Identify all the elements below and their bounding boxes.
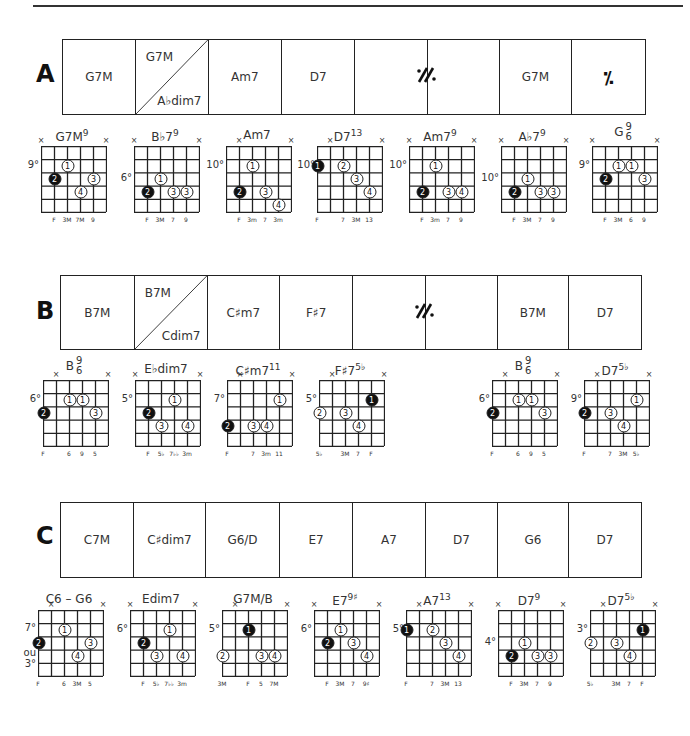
interval-labels: F73M5♭ xyxy=(584,450,649,460)
interval-label: 7♭♭ xyxy=(164,680,173,687)
bar-chord-name: F♯7 xyxy=(306,306,326,320)
interval-label: F xyxy=(52,216,55,223)
chord-name: E♭dim7 xyxy=(144,362,188,376)
chord-name: D7 xyxy=(608,594,625,608)
interval-label: 5 xyxy=(93,450,97,457)
interval-label: 3M xyxy=(341,450,350,457)
interval-label: 3m xyxy=(177,680,187,687)
muted-string-x-icon: × xyxy=(381,370,388,379)
muted-string-x-icon: × xyxy=(589,136,596,145)
interval-label: F xyxy=(512,216,515,223)
chord-diagram: D75♭××9°1234F73M5♭ xyxy=(574,362,664,472)
barre-finger-dot: 1 xyxy=(636,623,649,636)
finger-dot: 1 xyxy=(612,159,625,172)
top-rule xyxy=(33,5,683,7)
interval-label: F xyxy=(509,680,512,687)
bar-chord-name: C♯dim7 xyxy=(147,533,191,547)
bar-chord-name: B7M xyxy=(84,306,110,320)
chord-extension-bottom: 6 xyxy=(525,366,531,376)
muted-string-x-icon: × xyxy=(652,600,659,609)
finger-dot: 1 xyxy=(334,623,347,636)
finger-dot: 2 xyxy=(426,623,439,636)
muted-string-x-icon: × xyxy=(646,370,653,379)
finger-dot: 1 xyxy=(625,159,638,172)
bar-cell: G7MA♭dim7 xyxy=(136,40,209,114)
chord-name: E7 xyxy=(332,594,347,608)
finger-dot: 4 xyxy=(360,650,373,663)
barre-finger-dot: 2 xyxy=(221,420,234,433)
chord-diagram: D713××10°1234F73M13 xyxy=(307,128,397,238)
interval-label: 7 xyxy=(171,216,175,223)
barre-finger-dot: 2 xyxy=(416,186,429,199)
muted-string-x-icon: × xyxy=(563,136,570,145)
muted-string-x-icon: × xyxy=(471,136,478,145)
chord-diagram: Am7××10°1234F3m73m xyxy=(216,128,306,238)
fret-lines xyxy=(584,380,650,447)
interval-labels: F3M79 xyxy=(498,680,563,690)
barre-finger-dot: 2 xyxy=(486,407,499,420)
fretboard-grid: ××9°1123 xyxy=(592,146,657,212)
chord-diagram: C6 – G6××7°ou3°1234F63M5 xyxy=(28,592,118,702)
finger-dot: 4 xyxy=(363,186,376,199)
interval-labels: F73m11 xyxy=(227,450,292,460)
finger-dot: 4 xyxy=(268,650,281,663)
muted-string-x-icon: × xyxy=(192,600,199,609)
chord-name: D7 xyxy=(602,364,619,378)
finger-dot: 1 xyxy=(273,393,286,406)
muted-string-x-icon: × xyxy=(131,136,138,145)
bar-cell xyxy=(355,40,428,114)
interval-label: 6 xyxy=(629,216,633,223)
interval-label: 3M xyxy=(156,216,165,223)
fretboard-grid: ××10°1233 xyxy=(501,146,566,212)
finger-dot: 2 xyxy=(313,407,326,420)
muted-string-x-icon: × xyxy=(53,370,60,379)
fretboard-grid: ××5°1234 xyxy=(319,380,384,446)
interval-labels: F695 xyxy=(492,450,557,460)
chord-diagram-title: B96 xyxy=(33,356,115,376)
fretboard-grid: ××6°1234 xyxy=(130,610,195,676)
bar-cell: G6/D xyxy=(206,503,280,577)
interval-label: 7 xyxy=(446,216,450,223)
interval-label: F xyxy=(145,216,148,223)
interval-label: 5♭ xyxy=(158,450,165,457)
interval-label: 9 xyxy=(184,216,188,223)
interval-labels: F3M69 xyxy=(592,216,657,226)
muted-string-x-icon: × xyxy=(38,136,45,145)
bar-chord-name: C7M xyxy=(84,533,110,547)
interval-label: 7 xyxy=(351,680,355,687)
muted-string-x-icon: × xyxy=(498,136,505,145)
muted-string-x-icon: × xyxy=(416,600,423,609)
section-label: C xyxy=(36,522,54,550)
finger-dot: 1 xyxy=(163,623,176,636)
interval-label: F xyxy=(420,216,423,223)
chord-extension-stack: 96 xyxy=(76,356,82,376)
interval-label: 3M xyxy=(336,680,345,687)
finger-dot: 1 xyxy=(429,159,442,172)
fret-position-label: 6° xyxy=(21,393,41,404)
interval-labels: F3m79 xyxy=(409,216,474,226)
muted-string-x-icon: × xyxy=(554,370,561,379)
fret-lines xyxy=(319,380,385,447)
interval-label: 7 xyxy=(538,216,542,223)
interval-label: F xyxy=(369,450,372,457)
fret-position-label: 4° xyxy=(476,636,496,647)
barre-finger-dot: 2 xyxy=(321,637,334,650)
finger-dot: 1 xyxy=(630,393,643,406)
chord-extension-stack: 96 xyxy=(525,356,531,376)
chord-name: B xyxy=(515,359,523,373)
interval-label: F xyxy=(146,450,149,457)
interval-label: 3M xyxy=(441,680,450,687)
chord-name: B xyxy=(66,359,74,373)
chord-diagram: D79××4°1233F3M79 xyxy=(488,592,578,702)
chord-name: G7M/B xyxy=(233,592,273,606)
muted-string-x-icon: × xyxy=(105,370,112,379)
interval-labels: 5♭3M7F xyxy=(590,680,655,690)
finger-dot: 4 xyxy=(617,420,630,433)
chord-diagram-title: C♯m711 xyxy=(217,362,299,378)
chord-diagram: F♯75♭××5°12345♭3M7F xyxy=(309,362,399,472)
interval-label: 7 xyxy=(341,216,345,223)
fret-lines xyxy=(409,146,475,213)
finger-dot: 1 xyxy=(521,173,534,186)
interval-labels: F3m73m xyxy=(226,216,291,226)
interval-label: 3M xyxy=(523,216,532,223)
